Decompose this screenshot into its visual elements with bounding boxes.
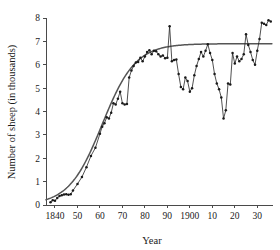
data-point-marker (249, 51, 252, 54)
data-point-marker (159, 55, 162, 58)
x-tick-label: 1840 (45, 211, 64, 221)
data-point-marker (144, 55, 147, 58)
data-point-marker (121, 102, 124, 105)
data-point-marker (67, 193, 70, 196)
data-point-marker (200, 51, 203, 54)
data-point-marker (240, 58, 243, 61)
data-point-marker (231, 52, 234, 55)
data-point-marker (135, 61, 138, 64)
data-point-marker (119, 90, 122, 93)
data-point-marker (261, 21, 264, 24)
x-tick-label: 80 (140, 211, 150, 221)
data-point-marker (146, 51, 149, 54)
data-point-marker (162, 54, 165, 57)
y-tick-label: 6 (35, 60, 40, 70)
x-tick-label: 70 (118, 211, 128, 221)
data-point-marker (238, 60, 241, 63)
data-point-marker (110, 111, 113, 114)
data-point-marker (177, 73, 180, 76)
y-tick-label: 3 (35, 130, 40, 140)
data-point-marker (65, 193, 68, 196)
data-point-marker (209, 52, 212, 55)
data-point-marker (153, 49, 156, 52)
data-point-marker (85, 166, 88, 169)
y-tick-label: 1 (35, 177, 40, 187)
data-point-marker (155, 50, 158, 53)
x-tick-label: 10 (208, 211, 218, 221)
y-axis-title: Number of sheep (in thousands) (6, 44, 18, 179)
data-point-marker (108, 117, 111, 120)
data-point-marker (258, 38, 261, 41)
data-point-marker (234, 62, 237, 65)
data-point-marker (128, 76, 131, 79)
data-point-marker (166, 56, 169, 59)
data-point-marker (63, 193, 65, 196)
chart-plot-area: 012345678 184050607080901900102030 Year … (0, 0, 280, 250)
data-point-marker (123, 103, 126, 106)
x-tick-label: 60 (95, 211, 105, 221)
data-point-marker (180, 86, 183, 89)
y-tick-label: 5 (35, 84, 40, 94)
data-point-marker (54, 200, 57, 203)
data-point-marker (69, 193, 72, 196)
data-point-marker (117, 97, 120, 100)
data-point-marker (58, 195, 61, 198)
data-point-marker (202, 55, 205, 58)
data-point-marker (51, 199, 54, 202)
y-tick-label: 4 (35, 107, 40, 117)
data-point-marker (49, 201, 52, 204)
data-point-marker (81, 176, 84, 179)
data-point-marker (247, 44, 250, 47)
data-point-marker (252, 59, 255, 62)
data-point-marker (195, 65, 198, 68)
x-axis-tick-labels: 184050607080901900102030 (45, 211, 262, 221)
data-point-marker (229, 83, 232, 86)
data-point-marker (94, 146, 97, 149)
x-tick-label: 90 (163, 211, 173, 221)
data-point-marker (236, 55, 239, 58)
data-point-marker (173, 59, 176, 62)
data-point-marker (193, 74, 196, 77)
data-point-marker (150, 53, 153, 56)
observed-series (49, 19, 272, 203)
data-point-marker (101, 125, 104, 128)
data-point-marker (182, 88, 185, 91)
data-point-marker (263, 23, 266, 26)
data-point-marker (245, 33, 248, 36)
data-point-marker (254, 64, 257, 67)
data-point-marker (148, 49, 151, 52)
data-point-marker (211, 59, 214, 62)
x-tick-label: 1900 (180, 211, 199, 221)
y-axis-tick-labels: 012345678 (35, 13, 40, 210)
data-point-marker (225, 109, 228, 112)
data-point-marker (105, 116, 108, 119)
data-point-marker (175, 58, 178, 61)
data-point-marker (112, 102, 115, 105)
data-point-marker (191, 87, 194, 90)
data-point-marker (222, 117, 225, 120)
data-point-marker (137, 61, 140, 64)
data-point-marker (204, 49, 207, 52)
data-point-marker (243, 53, 246, 56)
data-point-marker (90, 155, 93, 158)
x-tick-label: 20 (230, 211, 240, 221)
data-point-marker (213, 73, 216, 76)
data-point-marker (114, 103, 117, 106)
data-point-marker (56, 197, 59, 200)
data-point-marker (189, 90, 192, 93)
data-point-marker (198, 58, 201, 61)
data-point-marker (132, 65, 135, 68)
data-point-marker (126, 103, 129, 106)
x-tick-label: 30 (253, 211, 263, 221)
y-tick-label: 2 (35, 154, 40, 164)
data-point-marker (216, 82, 219, 85)
data-point-marker (76, 183, 79, 186)
data-point-marker (207, 43, 210, 46)
x-tick-label: 50 (73, 211, 83, 221)
data-point-marker (265, 24, 268, 27)
data-point-marker (141, 60, 144, 63)
fitted-logistic-curve (46, 44, 272, 200)
y-tick-label: 8 (35, 13, 40, 23)
data-point-marker (256, 49, 259, 52)
data-point-marker (227, 82, 230, 85)
